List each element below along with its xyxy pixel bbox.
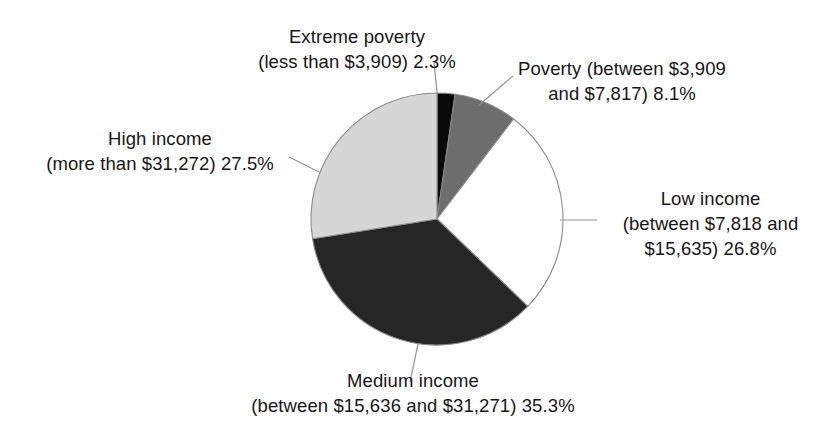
slice-label-low-income: Low income (between $7,818 and $15,635) … <box>593 186 828 261</box>
slice-label-high-income: High income (more than $31,272) 27.5% <box>10 126 310 176</box>
slice-label-low-income-line1: Low income <box>593 186 828 211</box>
pie-slice-high-income <box>311 93 437 239</box>
pie-slice-group <box>311 93 563 345</box>
slice-label-poverty: Poverty (between $3,909 and $7,817) 8.1% <box>497 56 747 106</box>
slice-label-low-income-line3: $15,635) 26.8% <box>593 236 828 261</box>
slice-label-high-income-line1: High income <box>10 126 310 151</box>
slice-label-high-income-line2: (more than $31,272) 27.5% <box>10 151 310 176</box>
slice-label-poverty-line1: Poverty (between $3,909 <box>497 56 747 81</box>
slice-label-medium-income: Medium income (between $15,636 and $31,2… <box>148 368 678 418</box>
slice-label-low-income-line2: (between $7,818 and <box>593 211 828 236</box>
slice-label-extreme-poverty-line2: (less than $3,909) 2.3% <box>232 49 482 74</box>
slice-label-medium-income-line2: (between $15,636 and $31,271) 35.3% <box>148 393 678 418</box>
slice-label-extreme-poverty-line1: Extreme poverty <box>232 24 482 49</box>
pie-chart-figure: Extreme poverty (less than $3,909) 2.3% … <box>0 0 828 434</box>
slice-label-medium-income-line1: Medium income <box>148 368 678 393</box>
slice-label-poverty-line2: and $7,817) 8.1% <box>497 81 747 106</box>
slice-label-extreme-poverty: Extreme poverty (less than $3,909) 2.3% <box>232 24 482 74</box>
